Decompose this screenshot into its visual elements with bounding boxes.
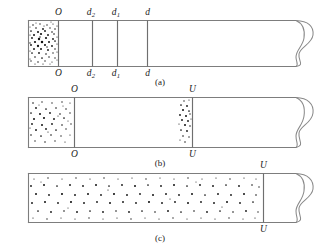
label-a-bottom-O: O bbox=[55, 68, 62, 78]
label-c-top-U: U bbox=[260, 160, 268, 170]
particle-cloud-b-band bbox=[178, 99, 191, 142]
tube-a-break-icon bbox=[296, 21, 313, 67]
panel-b: O U O U (b) bbox=[29, 84, 314, 168]
label-a-top-d: d bbox=[145, 7, 150, 17]
particle-cloud-b-left bbox=[29, 101, 71, 142]
diffusion-tube-figure: O d 2 d 1 d O d 2 d 1 d (a) bbox=[0, 0, 324, 245]
svg-text:2: 2 bbox=[92, 11, 96, 18]
caption-b: (b) bbox=[155, 158, 166, 168]
panel-a: O d 2 d 1 d O d 2 d 1 d (a) bbox=[29, 7, 314, 87]
label-a-top-d2: d 2 bbox=[87, 7, 96, 18]
label-b-top-O: O bbox=[71, 84, 78, 94]
label-c-bottom-U: U bbox=[260, 224, 268, 234]
label-a-top-O: O bbox=[55, 7, 62, 17]
label-b-bottom-O: O bbox=[71, 149, 78, 159]
particle-cloud-a bbox=[29, 22, 57, 65]
panel-c: U U (c) bbox=[29, 160, 314, 243]
caption-c: (c) bbox=[155, 233, 165, 243]
svg-text:1: 1 bbox=[117, 72, 120, 79]
particle-cloud-c bbox=[30, 177, 260, 219]
svg-text:1: 1 bbox=[117, 11, 120, 18]
label-a-top-d1: d 1 bbox=[112, 7, 121, 18]
label-b-top-U: U bbox=[189, 84, 197, 94]
tube-b-break-icon bbox=[296, 98, 313, 148]
tube-c-break-icon bbox=[296, 174, 313, 223]
label-a-bottom-d1: d 1 bbox=[112, 68, 121, 79]
label-a-bottom-d2: d 2 bbox=[87, 68, 96, 79]
svg-text:2: 2 bbox=[92, 72, 96, 79]
figure-canvas: O d 2 d 1 d O d 2 d 1 d (a) bbox=[0, 0, 324, 245]
label-a-bottom-d: d bbox=[145, 68, 150, 78]
caption-a: (a) bbox=[155, 77, 165, 87]
label-b-bottom-U: U bbox=[189, 149, 197, 159]
